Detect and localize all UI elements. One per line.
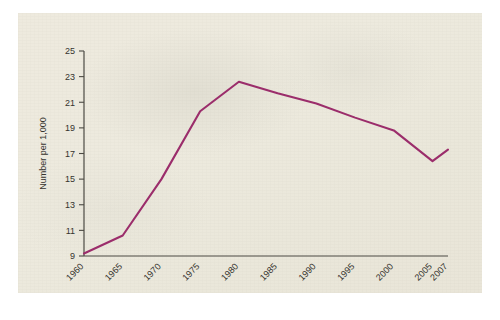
chart-figure: 91113151719212325 Number per 1,000 19601… xyxy=(0,0,500,320)
y-axis-title: Number per 1,000 xyxy=(38,117,48,190)
y-tick-label: 9 xyxy=(70,251,75,261)
y-tick-label: 23 xyxy=(65,72,75,82)
line-chart-plot: 91113151719212325 Number per 1,000 19601… xyxy=(0,0,500,320)
y-tick-label: 13 xyxy=(65,200,75,210)
x-tick-label: 1985 xyxy=(258,261,279,282)
x-tick-label: 2007 xyxy=(428,261,449,282)
x-tick-label: 1990 xyxy=(297,261,318,282)
x-tick-label: 1980 xyxy=(219,261,240,282)
data-line-number-per-1-000 xyxy=(84,82,448,254)
y-tick-label: 17 xyxy=(65,149,75,159)
x-tick-labels: 1960196519701975198019851990199520002005… xyxy=(64,261,449,282)
x-tick-label: 1995 xyxy=(335,261,356,282)
y-axis-title-text: Number per 1,000 xyxy=(38,117,48,190)
x-tick-label: 1975 xyxy=(180,261,201,282)
y-tick-label: 25 xyxy=(65,46,75,56)
y-tick-label: 15 xyxy=(65,174,75,184)
y-tick-label: 19 xyxy=(65,123,75,133)
x-tick-label: 1965 xyxy=(103,261,124,282)
x-tick-label: 2000 xyxy=(374,261,395,282)
y-axis: 91113151719212325 xyxy=(65,46,84,261)
x-tick-label: 1970 xyxy=(142,261,163,282)
y-tick-label: 11 xyxy=(66,226,75,236)
x-tick-label: 1960 xyxy=(64,261,85,282)
y-tick-label: 21 xyxy=(65,98,75,108)
data-series-group xyxy=(84,82,448,254)
